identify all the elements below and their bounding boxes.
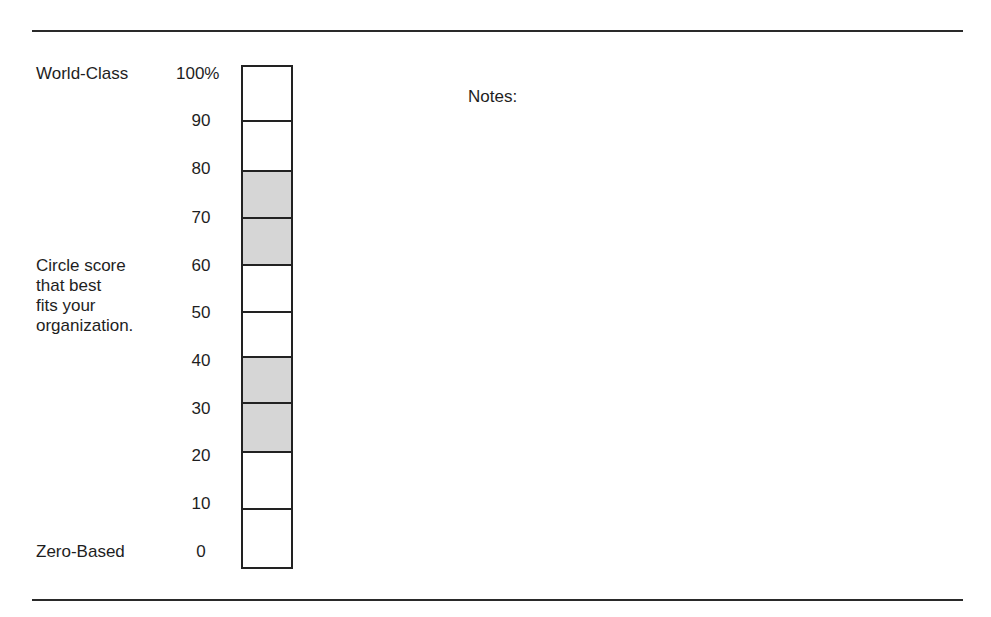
zero-based-label: Zero-Based xyxy=(36,542,125,562)
scale-label-60: 60 xyxy=(176,256,226,276)
scale-label-90: 90 xyxy=(176,111,226,131)
world-class-label: World-Class xyxy=(36,64,128,84)
instruction-line: Circle score xyxy=(36,256,166,276)
scale-label-40: 40 xyxy=(176,351,226,371)
bottom-rule xyxy=(32,599,963,601)
instruction-line: that best xyxy=(36,276,166,296)
score-cell-20-30[interactable] xyxy=(243,402,291,451)
score-cell-60-70[interactable] xyxy=(243,217,291,264)
score-cell-50-60[interactable] xyxy=(243,264,291,311)
scale-label-70: 70 xyxy=(176,208,226,228)
score-cell-70-80[interactable] xyxy=(243,170,291,217)
scale-label-30: 30 xyxy=(176,399,226,419)
scale-label-10: 10 xyxy=(176,494,226,514)
instruction-text: Circle score that best fits your organiz… xyxy=(36,256,166,336)
scale-label-50: 50 xyxy=(176,303,226,323)
score-cell-90-100[interactable] xyxy=(243,65,291,120)
top-rule xyxy=(32,30,963,32)
instruction-line: organization. xyxy=(36,316,166,336)
scale-label-80: 80 xyxy=(176,159,226,179)
score-cell-10-20[interactable] xyxy=(243,451,291,508)
scale-label-20: 20 xyxy=(176,446,226,466)
score-cell-30-40[interactable] xyxy=(243,356,291,402)
score-bar xyxy=(241,65,293,569)
scale-label-100: 100% xyxy=(176,64,226,84)
scale-label-0: 0 xyxy=(176,542,226,562)
score-cell-40-50[interactable] xyxy=(243,311,291,356)
score-cell-0-10[interactable] xyxy=(243,508,291,567)
notes-label: Notes: xyxy=(468,87,517,107)
score-cell-80-90[interactable] xyxy=(243,120,291,170)
instruction-line: fits your xyxy=(36,296,166,316)
